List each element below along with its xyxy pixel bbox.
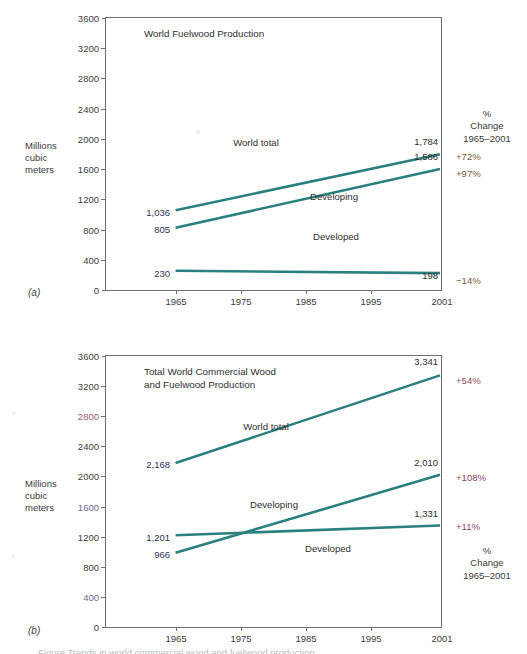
- y-axis-label: 2800: [78, 411, 99, 422]
- data-lines-b: [106, 356, 441, 627]
- series-label: World total: [243, 421, 289, 432]
- pct-change-header-a: % Change 1965–2001: [452, 108, 522, 145]
- y-axis-tick: [102, 290, 106, 291]
- y-axis-tick: [102, 627, 106, 628]
- series-line-developed: [176, 271, 440, 273]
- x-axis-label: 1995: [360, 633, 381, 644]
- pct-header-line1: %: [452, 108, 522, 120]
- start-value-label: 2,168: [146, 458, 174, 469]
- start-value-label: 966: [154, 549, 174, 560]
- y-axis-label: 3200: [78, 43, 99, 54]
- panel-letter-b: (b): [28, 625, 40, 636]
- x-axis-tick: [241, 290, 242, 294]
- y-axis-tick: [101, 78, 106, 79]
- end-value-label: 198: [422, 270, 441, 281]
- x-axis-label: 1995: [360, 296, 381, 307]
- start-value-label: 805: [154, 224, 174, 235]
- pct-change-value: +72%: [456, 151, 481, 162]
- y-axis-tick: [101, 199, 106, 200]
- y-axis-label: 0: [94, 285, 99, 296]
- series-label: World total: [233, 137, 279, 148]
- y-axis-label: 2800: [78, 73, 99, 84]
- scan-artifact: [196, 130, 200, 134]
- y-axis-title-line3: meters: [25, 502, 57, 514]
- y-axis-label: 800: [83, 224, 99, 235]
- y-axis-label: 800: [83, 561, 99, 572]
- data-lines-a: [106, 18, 441, 290]
- x-axis-tick: [176, 290, 177, 294]
- y-axis-label: 3600: [78, 13, 99, 24]
- figure-caption-partial: Figure Trends in world commercial wood a…: [38, 647, 508, 654]
- pct-header-line1: %: [452, 545, 522, 557]
- pct-change-value: −14%: [456, 275, 481, 286]
- y-axis-tick: [101, 169, 106, 170]
- y-axis-title-line3: meters: [25, 164, 57, 176]
- y-axis-label: 1600: [78, 164, 99, 175]
- y-axis-tick: [101, 260, 106, 261]
- y-axis-label: 2000: [78, 133, 99, 144]
- x-axis-label: 1985: [295, 296, 316, 307]
- pct-change-value: +97%: [456, 168, 481, 179]
- y-axis-title-line2: cubic: [25, 490, 57, 502]
- series-label: Developing: [250, 499, 298, 510]
- pct-header-line2: Change: [452, 120, 522, 132]
- y-axis-label: 400: [83, 591, 99, 602]
- start-value-label: 230: [154, 267, 174, 278]
- y-axis-tick: [101, 416, 106, 417]
- pct-header-line2: Change: [452, 557, 522, 569]
- scan-artifact: [12, 412, 15, 415]
- start-value-label: 1,036: [146, 206, 174, 217]
- y-axis-title-line2: cubic: [25, 152, 57, 164]
- y-axis-label: 2400: [78, 441, 99, 452]
- y-axis-label: 2400: [78, 103, 99, 114]
- x-axis-label: 1975: [230, 296, 251, 307]
- end-value-label: 1,784: [414, 136, 441, 147]
- plot-area-a: World Fuelwood Production 1,0361,784Worl…: [105, 17, 442, 291]
- series-label: Developing: [310, 191, 358, 202]
- y-axis-title-line1: Millions: [25, 478, 57, 490]
- chart-panel-b: (b) Millions cubic meters Total World Co…: [0, 330, 527, 654]
- y-axis-title-a: Millions cubic meters: [25, 140, 57, 177]
- y-axis-label: 1200: [78, 194, 99, 205]
- pct-change-value: +54%: [456, 375, 481, 386]
- y-axis-tick: [101, 386, 106, 387]
- pct-header-line3: 1965–2001: [452, 570, 522, 582]
- y-axis-label: 3200: [78, 381, 99, 392]
- x-axis-label: 2001: [431, 296, 452, 307]
- end-value-label: 3,341: [414, 356, 441, 367]
- y-axis-tick: [102, 356, 106, 357]
- y-axis-label: 3600: [78, 351, 99, 362]
- series-label: Developed: [305, 543, 351, 554]
- y-axis-title-b: Millions cubic meters: [25, 478, 57, 515]
- series-line-world-total: [176, 154, 440, 210]
- series-label: Developed: [313, 231, 359, 242]
- y-axis-tick: [101, 109, 106, 110]
- y-axis-tick: [101, 446, 106, 447]
- x-axis-tick: [241, 627, 242, 631]
- plot-area-b: Total World Commercial Wood and Fuelwood…: [105, 355, 442, 628]
- y-axis-tick: [101, 597, 106, 598]
- y-axis-tick: [101, 139, 106, 140]
- y-axis-tick: [101, 476, 106, 477]
- x-axis-tick: [176, 627, 177, 631]
- y-axis-tick: [102, 18, 106, 19]
- series-line-developing: [176, 475, 440, 553]
- pct-change-value: +11%: [456, 520, 480, 531]
- panel-letter-a: (a): [28, 287, 40, 298]
- x-axis-label: 1965: [165, 633, 186, 644]
- x-axis-tick: [371, 627, 372, 631]
- y-axis-label: 0: [94, 622, 99, 633]
- y-axis-title-line1: Millions: [25, 140, 57, 152]
- y-axis-label: 2000: [78, 471, 99, 482]
- end-value-label: 2,010: [414, 456, 441, 467]
- series-line-world-total: [176, 375, 440, 463]
- y-axis-tick: [101, 230, 106, 231]
- pct-change-header-b: % Change 1965–2001: [452, 545, 522, 582]
- y-axis-label: 1600: [78, 501, 99, 512]
- y-axis-tick: [101, 537, 106, 538]
- x-axis-label: 1965: [165, 296, 186, 307]
- x-axis-tick: [306, 290, 307, 294]
- chart-panel-a: (a) Millions cubic meters World Fuelwood…: [0, 0, 527, 330]
- end-value-label: 1,331: [414, 507, 441, 518]
- series-line-developing: [176, 169, 440, 228]
